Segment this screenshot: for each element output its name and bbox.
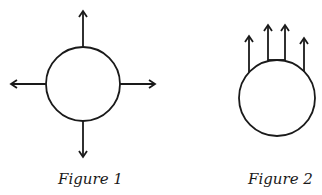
figure-1-circle	[46, 47, 120, 121]
figure-1-diagram	[11, 11, 155, 157]
figure-2-caption: Figure 2	[248, 170, 313, 188]
figure-2-diagram	[239, 25, 315, 136]
figure-1-caption: Figure 1	[58, 170, 123, 188]
diagram-canvas	[0, 0, 322, 195]
